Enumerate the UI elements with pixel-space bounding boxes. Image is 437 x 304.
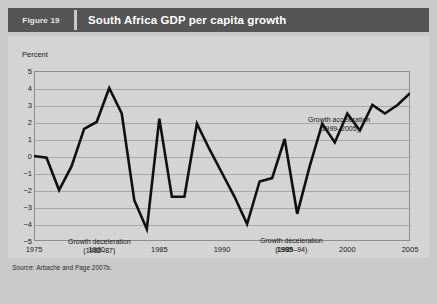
- x-tick-label: 1990: [214, 245, 231, 254]
- annotation-acceleration-1999: Growth acceleration (1999–2005): [308, 115, 370, 133]
- x-tick-label: 1975: [26, 245, 43, 254]
- y-tick-label: 4: [10, 84, 32, 93]
- x-tick-label: 2000: [339, 245, 356, 254]
- figure-title: South Africa GDP per capita growth: [77, 8, 429, 32]
- annotation-line-1: Growth acceleration: [308, 115, 370, 124]
- x-tick-label: 1985: [151, 245, 168, 254]
- annotation-line-2: (1982–87): [68, 246, 131, 255]
- figure-card: Figure 19 South Africa GDP per capita gr…: [0, 0, 437, 304]
- figure-number-label: Figure 19: [8, 8, 74, 32]
- annotation-deceleration-1982: Growth deceleration (1982–87): [68, 237, 131, 255]
- annotation-line-1: Growth deceleration: [68, 237, 131, 246]
- y-tick-label: 3: [10, 101, 32, 110]
- y-tick-label: −1: [10, 169, 32, 178]
- y-tick-label: 0: [10, 152, 32, 161]
- source-label: Source:: [12, 264, 34, 271]
- y-tick-label: 5: [10, 67, 32, 76]
- y-tick-label: −2: [10, 186, 32, 195]
- y-tick-label: 1: [10, 135, 32, 144]
- gdp-growth-line: [34, 88, 410, 229]
- figure-header: Figure 19 South Africa GDP per capita gr…: [8, 8, 429, 32]
- chart-panel: Percent 543210−1−2−3−4−5 197519801985199…: [8, 36, 429, 258]
- source-text: Arbache and Page 2007b.: [36, 264, 112, 271]
- annotation-line-2: (1999–2005): [308, 124, 370, 133]
- series-line-chart: [34, 71, 410, 241]
- annotation-deceleration-1989: Growth deceleration (1989–94): [260, 236, 323, 254]
- y-axis-ticks: 543210−1−2−3−4−5: [8, 71, 32, 241]
- y-axis-title: Percent: [22, 50, 48, 59]
- y-tick-label: 2: [10, 118, 32, 127]
- annotation-line-2: (1989–94): [260, 245, 323, 254]
- y-tick-label: −3: [10, 203, 32, 212]
- x-tick-label: 2005: [402, 245, 419, 254]
- y-tick-label: −4: [10, 220, 32, 229]
- source-note: Source: Arbache and Page 2007b.: [12, 264, 112, 271]
- annotation-line-1: Growth deceleration: [260, 236, 323, 245]
